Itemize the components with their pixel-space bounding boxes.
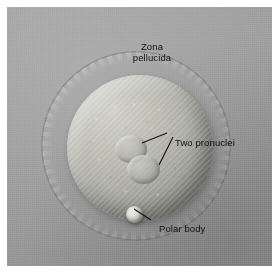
leader-line-pronucleus-1 [142,133,167,143]
micrograph-plate: Zona pellucida Two pronuclei Polar body [7,7,272,266]
polar-body-label: Polar body [159,223,205,234]
zona-pellucida-label-line1: Zona [141,41,163,52]
zona-pellucida-label: Zona pellucida [119,41,185,63]
leader-line-polar-body [134,209,151,220]
two-pronuclei-label: Two pronuclei [175,137,235,148]
zona-pellucida-label-line2: pellucida [133,52,171,63]
leader-line-pronucleus-2 [159,137,173,165]
micrograph-figure: Zona pellucida Two pronuclei Polar body [0,0,280,277]
